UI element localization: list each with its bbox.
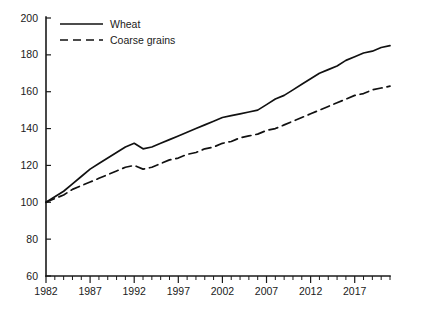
y-axis-tick-label: 200 <box>20 12 38 24</box>
x-axis-tick-label: 1987 <box>78 285 102 297</box>
y-axis-tick-label: 160 <box>20 85 38 97</box>
x-axis-tick-label: 2002 <box>211 285 235 297</box>
x-axis-tick-label: 2017 <box>343 285 367 297</box>
x-axis-tick-label: 2012 <box>299 285 323 297</box>
x-axis-tick-label: 2007 <box>255 285 279 297</box>
legend-label-coarse-grains: Coarse grains <box>110 34 175 46</box>
y-axis-tick-label: 140 <box>20 122 38 134</box>
x-axis-tick-label: 1992 <box>123 285 147 297</box>
x-axis-tick-label: 1997 <box>167 285 191 297</box>
y-axis-tick-label: 80 <box>26 233 38 245</box>
legend-label-wheat: Wheat <box>110 18 140 30</box>
y-axis-tick-label: 100 <box>20 196 38 208</box>
y-axis-tick-label: 60 <box>26 270 38 282</box>
x-axis-tick-label: 1982 <box>34 285 58 297</box>
chart-background <box>0 0 429 314</box>
line-chart: 6080100120140160180200 19821987199219972… <box>0 0 429 314</box>
y-axis-tick-label: 180 <box>20 48 38 60</box>
chart-container: 6080100120140160180200 19821987199219972… <box>0 0 429 314</box>
y-axis-tick-label: 120 <box>20 159 38 171</box>
